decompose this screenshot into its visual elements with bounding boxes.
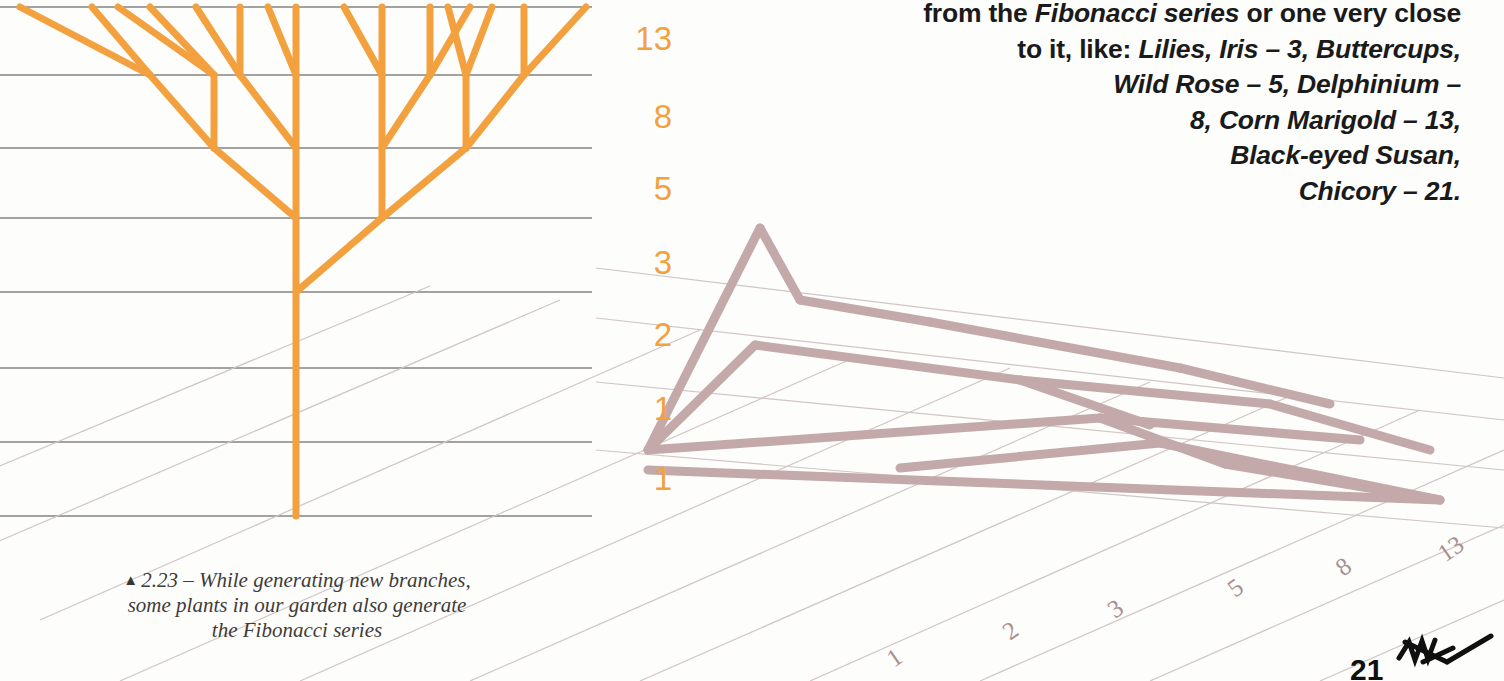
fib-count-5: 5 (612, 172, 672, 205)
fib-count-8: 8 (612, 100, 672, 133)
fib-count-13: 13 (612, 22, 672, 55)
fibonacci-series-emphasis: Fibonacci series (1035, 0, 1239, 28)
body-paragraph: from the Fibonacci series or one very cl… (893, 0, 1461, 209)
caption-line-1: 2.23 – While generating new branches, (141, 568, 471, 592)
orange-fibonacci-tree (20, 7, 586, 516)
caption-line-3: the Fibonacci series (212, 618, 382, 642)
body-line-5: Black-eyed Susan, (893, 138, 1461, 174)
body-line-6: Chicory – 21. (893, 174, 1461, 210)
body-line-1: from the Fibonacci series or one very cl… (893, 0, 1461, 32)
body-line-2-pre: to it, like: (1017, 34, 1138, 64)
fib-count-1-upper: 1 (612, 392, 672, 425)
plant-scribble-icon (1395, 628, 1504, 681)
fib-count-3: 3 (612, 246, 672, 279)
fib-count-2: 2 (612, 318, 672, 351)
fib-count-1-lower: 1 (612, 462, 672, 495)
body-line-4: 8, Corn Marigold – 13, (893, 103, 1461, 139)
figure-page: 13 8 5 3 2 1 1 1 2 3 5 8 13 21 from the … (0, 0, 1504, 681)
partial-black-label-21: 21 (1350, 655, 1383, 681)
body-line-3: Wild Rose – 5, Delphinium – (893, 67, 1461, 103)
mauve-perspective-tree (648, 228, 1440, 500)
body-line-1-post: or one very close (1239, 0, 1461, 28)
body-line-2: to it, like: Lilies, Iris – 3, Buttercup… (893, 32, 1461, 68)
body-line-2-flowers: Lilies, Iris – 3, Buttercups, (1138, 34, 1461, 64)
caption-triangle-icon: ▲ (123, 572, 138, 588)
caption-line-2: some plants in our garden also generate (128, 593, 467, 617)
figure-caption: ▲2.23 – While generating new branches, s… (62, 568, 532, 643)
body-line-1-pre: from the (923, 0, 1035, 28)
